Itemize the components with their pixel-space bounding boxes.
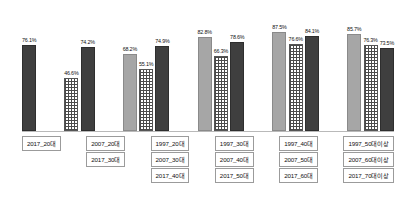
x-axis-line bbox=[22, 131, 394, 132]
bar-1997 bbox=[123, 54, 137, 131]
bar-group: 82.8%66.3%78.6% bbox=[198, 6, 245, 131]
plot-area: 76.1%46.6%74.2%68.2%55.1%74.9%82.8%66.3%… bbox=[22, 6, 394, 132]
bar-item: 84.1% bbox=[305, 6, 319, 131]
bar-item: 85.7% bbox=[347, 6, 361, 131]
bar-item: 87.5% bbox=[272, 6, 286, 131]
legend-item-2007[interactable]: 2007_20대 bbox=[86, 136, 125, 151]
legend-item-2007[interactable]: 2007_50대 bbox=[279, 152, 318, 167]
bar-group: 87.5%76.6%84.1% bbox=[272, 6, 319, 131]
legend-item-1997[interactable]: 1997_30대 bbox=[215, 136, 254, 151]
legend-item-2017[interactable]: 2017_50대 bbox=[215, 168, 254, 183]
bar-value-label: 85.7% bbox=[347, 26, 361, 33]
bar-value-label: 82.8% bbox=[198, 29, 212, 36]
bar-2007 bbox=[139, 69, 153, 131]
bar-2017 bbox=[380, 48, 394, 131]
bar-2017 bbox=[22, 45, 36, 131]
bar-2017 bbox=[305, 36, 319, 131]
legend-item-2017[interactable]: 2017_70대이상 bbox=[343, 168, 394, 183]
bar-item: 76.6% bbox=[289, 6, 303, 131]
legend-column: 2017_20대 bbox=[22, 136, 61, 208]
legend-item-2017[interactable]: 2017_20대 bbox=[22, 136, 61, 151]
legend-item-2017[interactable]: 2017_30대 bbox=[86, 152, 125, 167]
bar-value-label: 46.6% bbox=[64, 70, 78, 77]
bar-groups: 76.1%46.6%74.2%68.2%55.1%74.9%82.8%66.3%… bbox=[22, 6, 394, 131]
bar-1997 bbox=[198, 37, 212, 131]
bar-1997 bbox=[272, 32, 286, 131]
bar-value-label: 76.1% bbox=[22, 37, 36, 44]
bar-value-label: 76.3% bbox=[363, 37, 377, 44]
bar-item: 66.3% bbox=[214, 6, 228, 131]
grouped-bar-chart: 76.1%46.6%74.2%68.2%55.1%74.9%82.8%66.3%… bbox=[0, 0, 399, 211]
legend-column: 1997_30대2007_40대2017_50대 bbox=[215, 136, 254, 208]
legend-item-1997[interactable]: 1997_20대 bbox=[151, 136, 190, 151]
bar-item: 76.1% bbox=[22, 6, 36, 131]
bar-group: 76.1% bbox=[22, 6, 36, 131]
bar-value-label: 87.5% bbox=[272, 24, 286, 31]
bar-item: 73.5% bbox=[380, 6, 394, 131]
bar-value-label: 68.2% bbox=[123, 46, 137, 53]
bar-value-label: 78.6% bbox=[230, 34, 244, 41]
bar-2017 bbox=[81, 47, 95, 131]
legend-item-2017[interactable]: 2017_40대 bbox=[151, 168, 190, 183]
legend-column: 1997_20대2007_30대2017_40대 bbox=[151, 136, 190, 208]
legend-item-2007[interactable]: 2007_30대 bbox=[151, 152, 190, 167]
bar-2007 bbox=[289, 44, 303, 131]
bar-value-label: 74.9% bbox=[155, 38, 169, 45]
bar-group: 46.6%74.2% bbox=[64, 6, 95, 131]
bar-item: 46.6% bbox=[64, 6, 78, 131]
bar-item: 78.6% bbox=[230, 6, 244, 131]
bar-2017 bbox=[155, 46, 169, 131]
legend-item-2007[interactable]: 2007_40대 bbox=[215, 152, 254, 167]
legend-item-2007[interactable]: 2007_60대이상 bbox=[343, 152, 394, 167]
bar-item: 68.2% bbox=[123, 6, 137, 131]
legend-item-1997[interactable]: 1997_40대 bbox=[279, 136, 318, 151]
bar-2007 bbox=[214, 56, 228, 131]
legend: 2017_20대2007_20대2017_30대1997_20대2007_30대… bbox=[22, 136, 394, 208]
bar-value-label: 66.3% bbox=[214, 48, 228, 55]
bar-value-label: 84.1% bbox=[305, 28, 319, 35]
bar-item: 82.8% bbox=[198, 6, 212, 131]
bar-2007 bbox=[64, 78, 78, 131]
bar-item: 74.9% bbox=[155, 6, 169, 131]
bar-2017 bbox=[230, 42, 244, 131]
legend-item-2017[interactable]: 2017_60대 bbox=[279, 168, 318, 183]
bar-item: 74.2% bbox=[81, 6, 95, 131]
bar-value-label: 73.5% bbox=[380, 40, 394, 47]
bar-value-label: 76.6% bbox=[289, 36, 303, 43]
legend-item-1997[interactable]: 1997_50대이상 bbox=[343, 136, 394, 151]
bar-value-label: 74.2% bbox=[81, 39, 95, 46]
legend-column: 1997_40대2007_50대2017_60대 bbox=[279, 136, 318, 208]
bar-group: 68.2%55.1%74.9% bbox=[123, 6, 170, 131]
legend-column: 1997_50대이상2007_60대이상2017_70대이상 bbox=[343, 136, 394, 208]
bar-1997 bbox=[347, 34, 361, 131]
bar-item: 76.3% bbox=[363, 6, 377, 131]
bar-value-label: 55.1% bbox=[139, 61, 153, 68]
bar-group: 85.7%76.3%73.5% bbox=[347, 6, 394, 131]
bar-item: 55.1% bbox=[139, 6, 153, 131]
legend-column: 2007_20대2017_30대 bbox=[86, 136, 125, 208]
bar-2007 bbox=[364, 45, 378, 131]
